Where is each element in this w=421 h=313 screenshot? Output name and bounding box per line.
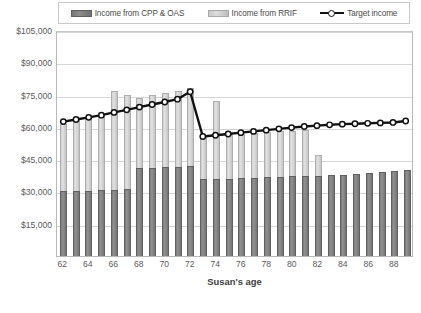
legend-item-cpp-oas: Income from CPP & OAS — [71, 9, 185, 18]
bar-segment-cpp-oas — [404, 170, 411, 256]
bar-segment-cpp-oas — [379, 172, 386, 256]
bar-segment-cpp-oas — [124, 189, 131, 256]
bar-segment-cpp-oas — [149, 168, 156, 256]
bar-segment-rrif — [226, 135, 233, 179]
y-axis-tick-label: $30,000 — [21, 187, 52, 197]
bar-segment-cpp-oas — [175, 167, 182, 256]
bar-column — [85, 118, 92, 256]
bar-segment-rrif — [136, 98, 143, 169]
bar-column — [315, 155, 322, 256]
x-axis-tick-label: 88 — [389, 259, 399, 269]
bar-column — [149, 95, 156, 256]
x-axis-tick-label: 80 — [287, 259, 297, 269]
bar-segment-cpp-oas — [264, 177, 271, 256]
y-axis-tick-label: $105,000 — [16, 26, 52, 36]
bar-column — [264, 132, 271, 256]
bar-segment-cpp-oas — [136, 168, 143, 256]
bar-column — [187, 88, 194, 256]
bar-segment-cpp-oas — [328, 175, 335, 256]
x-axis-tick-label: 76 — [236, 259, 246, 269]
bar-segment-rrif — [149, 95, 156, 168]
bar-column — [404, 170, 411, 256]
bar-segment-rrif — [60, 124, 67, 192]
bar-column — [200, 136, 207, 256]
bar-segment-cpp-oas — [162, 167, 169, 256]
bar-segment-rrif — [73, 120, 80, 191]
bar-column — [379, 172, 386, 256]
x-axis-tick-label: 64 — [83, 259, 93, 269]
x-axis-tick-label: 82 — [313, 259, 323, 269]
y-axis-tick-label: $75,000 — [21, 91, 52, 101]
bar-column — [289, 131, 296, 256]
bar-column — [136, 98, 143, 256]
bar-segment-rrif — [85, 118, 92, 190]
bar-segment-cpp-oas — [213, 179, 220, 256]
bar-segment-cpp-oas — [277, 177, 284, 256]
bar-column — [98, 116, 105, 256]
bar-column — [340, 175, 347, 256]
bar-segment-cpp-oas — [238, 178, 245, 256]
chart-legend: Income from CPP & OAS Income from RRIF T… — [58, 2, 410, 24]
bar-segment-rrif — [251, 133, 258, 178]
legend-item-target-income: Target income — [320, 9, 397, 18]
bar-segment-rrif — [289, 131, 296, 177]
bar-segment-cpp-oas — [200, 179, 207, 256]
bar-segment-cpp-oas — [289, 176, 296, 256]
bar-segment-rrif — [302, 130, 309, 176]
bar-segment-cpp-oas — [353, 174, 360, 256]
y-axis-tick-label: $90,000 — [21, 58, 52, 68]
y-axis-tick-label: $45,000 — [21, 155, 52, 165]
bar-segment-rrif — [315, 155, 322, 176]
y-axis-tick-label: $15,000 — [21, 220, 52, 230]
bar-segment-rrif — [277, 131, 284, 176]
legend-label-rrif: Income from RRIF — [232, 9, 297, 18]
bar-column — [226, 135, 233, 256]
bar-column — [238, 134, 245, 256]
bar-segment-cpp-oas — [315, 176, 322, 256]
bar-segment-rrif — [162, 93, 169, 167]
bar-segment-rrif — [111, 91, 118, 190]
bar-column — [366, 173, 373, 256]
bar-segment-cpp-oas — [98, 190, 105, 256]
bar-column — [277, 131, 284, 256]
bar-segment-rrif — [213, 101, 220, 179]
y-axis-tick-label: $60,000 — [21, 123, 52, 133]
bar-column — [124, 95, 131, 256]
x-axis-tick-label: 68 — [134, 259, 144, 269]
bar-segment-cpp-oas — [73, 191, 80, 256]
bar-segment-rrif — [264, 132, 271, 177]
x-axis-tick-label: 70 — [160, 259, 170, 269]
x-axis-tick-label: 84 — [338, 259, 348, 269]
bar-column — [213, 101, 220, 256]
legend-item-rrif: Income from RRIF — [208, 9, 297, 18]
bar-column — [251, 133, 258, 256]
bar-column — [111, 91, 118, 256]
bar-segment-cpp-oas — [111, 190, 118, 257]
x-axis-tick-label: 66 — [109, 259, 119, 269]
bar-segment-rrif — [98, 116, 105, 190]
legend-swatch-dark-icon — [71, 10, 92, 17]
bar-column — [391, 171, 398, 256]
x-axis-title: Susan's age — [56, 276, 413, 287]
x-axis-tick-label: 78 — [262, 259, 272, 269]
chart-container: Income from CPP & OAS Income from RRIF T… — [0, 0, 421, 313]
legend-swatch-light-icon — [208, 10, 229, 17]
plot-area — [56, 31, 413, 257]
bar-segment-rrif — [238, 134, 245, 178]
bar-column — [162, 93, 169, 256]
bar-segment-cpp-oas — [187, 166, 194, 256]
x-axis-labels: 6264666870727476788082848688 — [56, 259, 413, 277]
bar-segment-cpp-oas — [226, 179, 233, 256]
bar-column — [302, 130, 309, 256]
bar-segment-cpp-oas — [302, 176, 309, 256]
bar-segment-cpp-oas — [85, 191, 92, 256]
legend-label-target-income: Target income — [347, 9, 397, 18]
bar-series-group — [57, 32, 412, 256]
y-axis-labels: $15,000$30,000$45,000$60,000$75,000$90,0… — [0, 0, 56, 313]
legend-line-marker-icon — [320, 9, 344, 17]
legend-label-cpp-oas: Income from CPP & OAS — [95, 9, 185, 18]
bar-column — [60, 124, 67, 256]
x-axis-tick-label: 74 — [211, 259, 221, 269]
bar-segment-rrif — [175, 91, 182, 167]
bar-column — [328, 175, 335, 256]
